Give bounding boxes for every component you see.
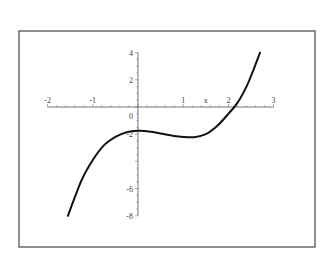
y-tick-label: 0 xyxy=(129,112,133,121)
chart-area: -2-11x23420-2-6-8 xyxy=(0,0,328,256)
x-axis-label: x xyxy=(204,96,208,105)
tick-labels: -2-11x23420-2-6-8 xyxy=(44,49,275,221)
x-tick-label: -1 xyxy=(89,96,96,105)
x-tick-label: 1 xyxy=(181,96,185,105)
plot-frame xyxy=(19,31,315,247)
y-tick-label: 4 xyxy=(129,49,133,58)
x-tick-label: -2 xyxy=(44,96,51,105)
x-tick-label: 2 xyxy=(226,96,230,105)
y-tick-label: -8 xyxy=(126,212,133,221)
y-tick-label: 2 xyxy=(129,76,133,85)
y-tick-label: -6 xyxy=(126,185,133,194)
x-tick-label: 3 xyxy=(272,96,276,105)
function-curve xyxy=(68,53,260,216)
